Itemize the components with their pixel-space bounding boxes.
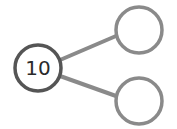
number-bond-diagram: 10 — [0, 0, 177, 129]
connector-bottom — [60, 76, 116, 96]
part-circle-top[interactable] — [116, 7, 162, 53]
whole-value: 10 — [25, 56, 50, 80]
part-circle-bottom[interactable] — [116, 78, 162, 124]
connector-top — [60, 36, 116, 60]
